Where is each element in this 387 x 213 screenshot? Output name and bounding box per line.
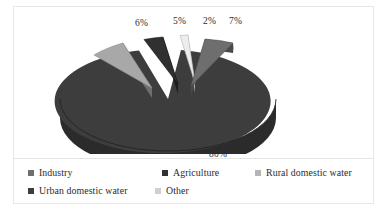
legend-item-urban-domestic-water[interactable]: Urban domestic water — [28, 185, 155, 197]
legend-swatch-urban-domestic-water-icon — [28, 188, 34, 194]
data-label-rural-domestic-water: 6% — [135, 18, 148, 28]
pie-chart-svg — [13, 6, 374, 154]
legend-label-agriculture: Agriculture — [173, 167, 219, 179]
legend-item-other[interactable]: Other — [155, 185, 189, 197]
legend-item-rural-domestic-water[interactable]: Rural domestic water — [255, 167, 352, 179]
pie-chart-figure: 6% 5% 2% 7% 80% Industry Agriculture Rur… — [0, 0, 387, 213]
legend-swatch-rural-domestic-water-icon — [255, 170, 261, 176]
chart-legend: Industry Agriculture Rural domestic wate… — [14, 160, 373, 203]
legend-row-2: Urban domestic water Other — [28, 182, 373, 200]
legend-separator — [14, 158, 373, 159]
legend-label-rural-domestic-water: Rural domestic water — [266, 167, 352, 179]
legend-row-1: Industry Agriculture Rural domestic wate… — [28, 164, 373, 182]
data-label-other: 2% — [203, 16, 216, 26]
data-label-agriculture: 5% — [173, 16, 186, 26]
pie-plot-area: 6% 5% 2% 7% 80% — [13, 6, 374, 154]
legend-item-industry[interactable]: Industry — [28, 167, 162, 179]
legend-swatch-agriculture-icon — [162, 170, 168, 176]
legend-label-other: Other — [166, 185, 189, 197]
legend-label-urban-domestic-water: Urban domestic water — [39, 185, 128, 197]
data-label-urban-domestic-water: 7% — [229, 16, 242, 26]
legend-swatch-other-icon — [155, 188, 161, 194]
legend-swatch-industry-icon — [28, 170, 34, 176]
legend-label-industry: Industry — [39, 167, 72, 179]
legend-item-agriculture[interactable]: Agriculture — [162, 167, 255, 179]
pie-slice-industry-top — [55, 50, 271, 153]
